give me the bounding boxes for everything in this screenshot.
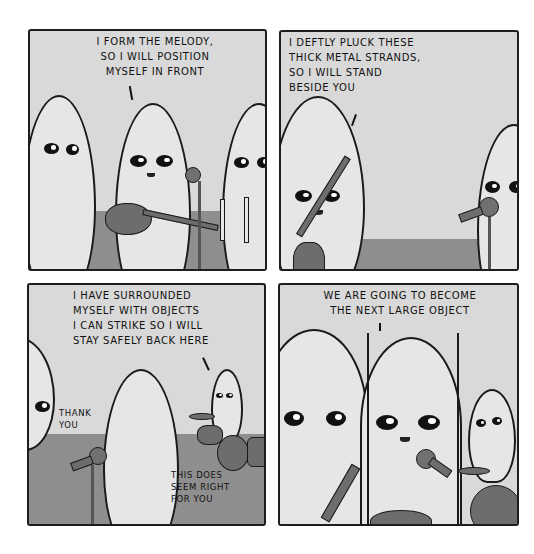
- eye-icon: [35, 401, 50, 412]
- speech-tail: [202, 357, 209, 370]
- panel-2: I deftly pluck these thick metal strands…: [279, 30, 519, 271]
- eye-icon: [257, 157, 267, 168]
- alien-singer-back: [103, 369, 179, 526]
- speech-text-4: We are going to become the next large ob…: [285, 288, 515, 318]
- panel-4: We are going to become the next large ob…: [278, 283, 519, 526]
- panel-1: I form the melody, so I will position my…: [28, 29, 267, 271]
- eye-icon: [509, 181, 519, 193]
- alien-singer: [115, 103, 191, 271]
- mouth: [400, 437, 410, 442]
- cymbal-icon: [458, 467, 490, 475]
- eye-icon: [284, 411, 304, 426]
- eye-icon: [418, 415, 440, 430]
- speech-tail: [379, 323, 381, 331]
- alien-drummer: [222, 103, 267, 271]
- aside-thank-you: Thank you: [59, 407, 99, 431]
- guitar-icon: [105, 203, 152, 235]
- eye-icon: [216, 393, 223, 398]
- eye-icon: [376, 415, 398, 430]
- eye-icon: [156, 155, 173, 167]
- speech-tail: [129, 86, 133, 100]
- mic-stand: [198, 181, 201, 271]
- eye-icon: [326, 411, 346, 426]
- aside-this-does-seem-right: This does seem right for you: [171, 469, 251, 505]
- drum-floor-tom: [247, 437, 266, 467]
- guitar-icon: [293, 242, 325, 271]
- eye-icon: [66, 144, 79, 155]
- eye-icon: [485, 181, 500, 193]
- drumstick-icon: [244, 197, 249, 243]
- speech-tail: [351, 114, 357, 126]
- eye-icon: [44, 143, 59, 154]
- eye-icon: [130, 155, 147, 167]
- mouth: [147, 173, 155, 177]
- alien-singer-closeup: [360, 337, 462, 526]
- drum-kit-icon: [470, 485, 519, 526]
- drumstick-icon: [220, 199, 225, 241]
- eye-icon: [226, 393, 233, 398]
- eye-icon: [295, 190, 312, 202]
- speech-text-2: I deftly pluck these thick metal strands…: [289, 35, 504, 95]
- speech-text-3: I have surrounded myself with objects I …: [73, 288, 266, 348]
- hand: [370, 510, 432, 526]
- drum-tom: [197, 425, 223, 445]
- panel-divider: [457, 333, 459, 526]
- eye-icon: [476, 419, 486, 427]
- cymbal-icon: [189, 413, 215, 420]
- eye-icon: [234, 157, 249, 168]
- alien-bassist: [28, 95, 96, 271]
- mic-stand: [488, 217, 491, 271]
- speech-text-1: I form the melody, so I will position my…: [60, 34, 250, 79]
- alien-guitarist-closeup: [278, 329, 368, 526]
- panel-3: I have surrounded myself with objects I …: [27, 283, 266, 526]
- eye-icon: [492, 417, 502, 425]
- panel-divider: [367, 333, 369, 526]
- mic-stand: [91, 465, 94, 526]
